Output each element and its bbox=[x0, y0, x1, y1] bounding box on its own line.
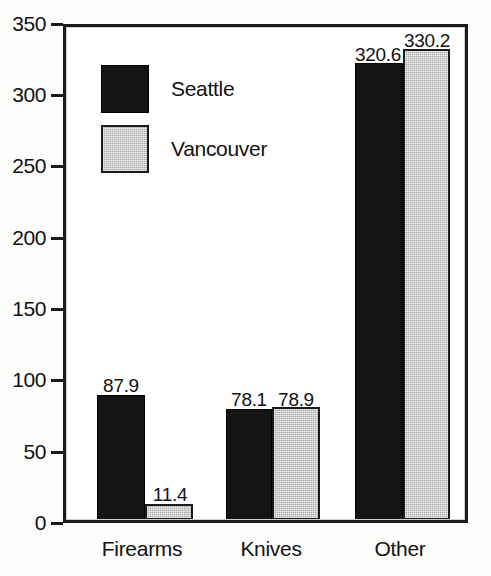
legend-swatch-vancouver-icon bbox=[101, 125, 149, 173]
y-tick-label: 0 bbox=[35, 510, 46, 536]
x-category-label-firearms: Firearms bbox=[102, 536, 182, 562]
bar-vancouver-knives bbox=[272, 407, 320, 520]
y-tick-label: 200 bbox=[12, 225, 46, 251]
y-tick-label: 150 bbox=[12, 296, 46, 322]
y-tick-mark bbox=[51, 308, 63, 311]
bar-seattle-knives bbox=[226, 409, 272, 520]
legend-swatch-seattle-icon bbox=[101, 65, 149, 113]
y-tick-label: 100 bbox=[12, 367, 46, 393]
bar-vancouver-firearms bbox=[145, 504, 193, 520]
bar-seattle-firearms bbox=[97, 395, 145, 520]
y-tick-mark bbox=[51, 23, 63, 26]
plot-area: 87.9 11.4 78.1 78.9 320.6 330.2 Seattle … bbox=[63, 24, 468, 523]
bar-value-vancouver-firearms: 11.4 bbox=[153, 484, 187, 506]
legend-label-vancouver: Vancouver bbox=[171, 136, 267, 162]
y-tick-label: 250 bbox=[12, 153, 46, 179]
y-tick-label: 50 bbox=[23, 439, 46, 465]
bar-value-seattle-knives: 78.1 bbox=[231, 389, 267, 411]
legend-label-seattle: Seattle bbox=[171, 76, 234, 102]
bar-seattle-other bbox=[355, 63, 403, 520]
bar-vancouver-other bbox=[403, 49, 450, 520]
y-tick-mark bbox=[51, 451, 63, 454]
legend-item-vancouver: Vancouver bbox=[101, 125, 267, 173]
y-tick-label: 300 bbox=[12, 82, 46, 108]
x-category-label-knives: Knives bbox=[240, 536, 301, 562]
bar-chart: 350 300 250 200 150 100 50 0 bbox=[0, 0, 491, 576]
y-tick-mark bbox=[51, 165, 63, 168]
y-tick-mark bbox=[51, 522, 63, 525]
y-tick-mark bbox=[51, 237, 63, 240]
x-category-label-other: Other bbox=[374, 536, 425, 562]
y-tick-label: 350 bbox=[12, 11, 46, 37]
bar-value-seattle-firearms: 87.9 bbox=[103, 375, 139, 397]
bar-value-seattle-other: 320.6 bbox=[355, 44, 401, 66]
legend-item-seattle: Seattle bbox=[101, 65, 234, 113]
bar-value-vancouver-other: 330.2 bbox=[404, 30, 450, 52]
y-tick-mark bbox=[51, 94, 63, 97]
y-tick-mark bbox=[51, 379, 63, 382]
bar-value-vancouver-knives: 78.9 bbox=[278, 389, 314, 411]
